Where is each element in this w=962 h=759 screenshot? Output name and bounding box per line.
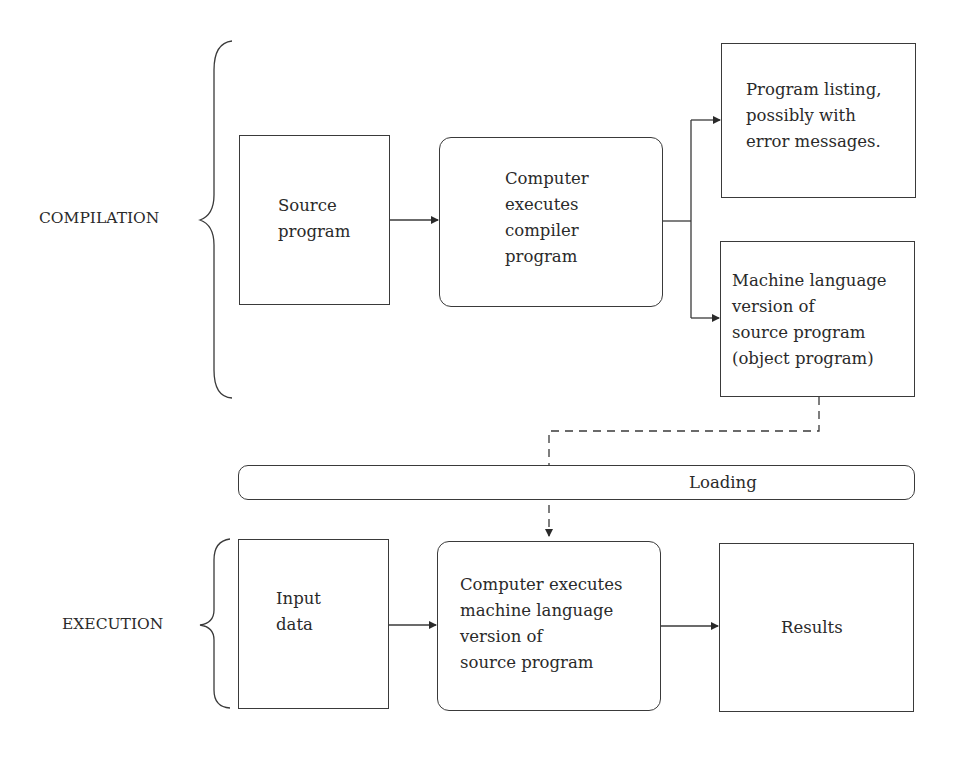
results-box: Results [719, 543, 914, 712]
program-listing-box: Program listing, possibly with error mes… [721, 43, 916, 198]
program-listing-text: Program listing, possibly with error mes… [746, 77, 881, 155]
compiler-text: Computer executes compiler program [505, 166, 589, 270]
compilation-execution-diagram: COMPILATION EXECUTION Source program Com… [0, 0, 962, 759]
input-data-box: Input data [238, 539, 389, 709]
loading-bar: Loading [238, 465, 915, 500]
execute-machine-language-text: Computer executes machine language versi… [460, 572, 623, 676]
compilation-label: COMPILATION [39, 209, 159, 227]
source-program-text: Source program [278, 193, 350, 245]
compiler-box: Computer executes compiler program [439, 137, 663, 307]
execute-machine-language-box: Computer executes machine language versi… [437, 541, 661, 711]
results-text: Results [781, 615, 843, 641]
execution-brace [200, 539, 230, 708]
input-data-text: Input data [276, 586, 321, 638]
object-program-box: Machine language version of source progr… [720, 241, 915, 397]
compilation-brace [200, 41, 232, 398]
object-program-text: Machine language version of source progr… [732, 268, 887, 372]
source-program-box: Source program [239, 135, 390, 305]
loading-text: Loading [689, 470, 757, 496]
execution-label: EXECUTION [62, 615, 163, 633]
